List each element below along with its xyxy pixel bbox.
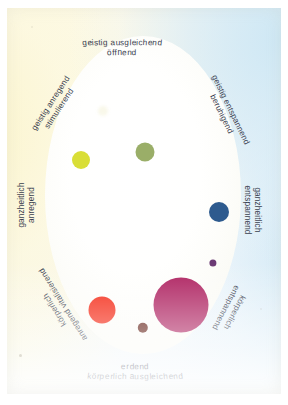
label-line-1: ganzheitlich	[253, 187, 262, 232]
scan-speck	[260, 308, 262, 310]
label-ganzheitlich-entspannend: ganzheitlichentspannend	[242, 185, 261, 234]
scan-speck	[31, 26, 33, 28]
scanned-paper: geistig ausgleichendöffnendgeistig anreg…	[7, 8, 281, 394]
label-line-2: körperlich ausgleichend	[92, 372, 178, 382]
dot-olive	[136, 143, 155, 162]
dot-blue	[209, 202, 229, 222]
label-line-2: entspannend	[242, 185, 252, 234]
diagram-page: geistig ausgleichendöffnendgeistig anreg…	[0, 0, 288, 405]
dot-red	[89, 297, 116, 324]
label-line-1: erdend	[92, 362, 178, 372]
label-erdend: erdendkörperlich ausgleichend	[92, 362, 178, 382]
dot-yellow	[72, 151, 90, 169]
label-geistig-ausgleichend: geistig ausgleichendöffnend	[85, 38, 159, 58]
label-line-1: ganzheitlich	[17, 182, 26, 227]
label-line-2: öffnend	[85, 48, 159, 58]
dot-pale-cream	[98, 106, 108, 116]
dot-magenta	[154, 278, 209, 333]
label-line-2: anregend	[27, 182, 37, 227]
label-line-1: geistig ausgleichend	[85, 38, 159, 48]
scan-speck	[19, 354, 22, 357]
label-ganzheitlich-anregend: ganzheitlichanregend	[17, 182, 36, 227]
